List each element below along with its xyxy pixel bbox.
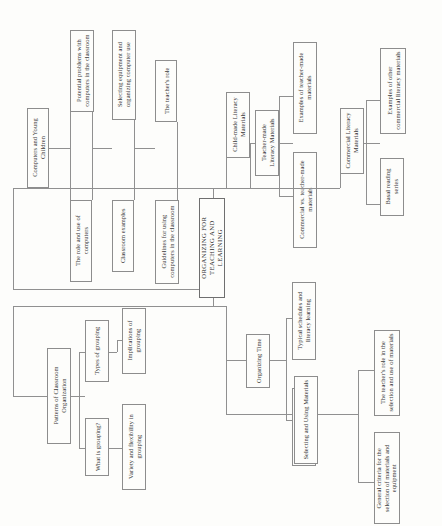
connector-materials-children-spine bbox=[358, 370, 359, 482]
node-organizing-time[interactable]: Organizing Time bbox=[246, 334, 270, 388]
connector-types-riser bbox=[117, 340, 118, 352]
connector-commercial-children-spine bbox=[366, 100, 367, 204]
node-label: Basal readingseries bbox=[384, 169, 399, 205]
node-implications-of-grouping[interactable]: Implications ofgrouping bbox=[122, 308, 146, 374]
connector-role-riser bbox=[92, 148, 93, 200]
node-label: Classroom examples bbox=[119, 209, 127, 264]
connector-time-to-characteristics bbox=[286, 420, 292, 421]
connector-branch4-stem bbox=[213, 306, 226, 307]
node-teacher-made-literacy-materials[interactable]: Teacher-madeLiteracy Materials bbox=[255, 110, 279, 176]
connector-classroom-to-select bbox=[134, 148, 155, 149]
connector-teacher-to-commvs bbox=[279, 196, 293, 197]
node-organizing-for-teaching-and-learning[interactable]: ORGANIZING FORTEACHING ANDLEARNING bbox=[199, 198, 225, 298]
connector-c1-to-col2 bbox=[49, 148, 70, 149]
connector-patterns-to-types bbox=[79, 352, 85, 353]
connector-branch4-materials bbox=[226, 414, 294, 415]
node-label: Examples of othercommercial literacy mat… bbox=[385, 52, 400, 130]
connector-comm-to-examples bbox=[366, 100, 380, 101]
node-commercial-vs-teacher-made[interactable]: Commercial vs. teacher-madematerials bbox=[293, 152, 317, 248]
connector-time-children-spine bbox=[286, 318, 287, 420]
connector-branch2-stem bbox=[213, 188, 226, 189]
node-commercial-literacy-materials[interactable]: Commercial LiteracyMaterials bbox=[340, 108, 364, 174]
node-label: Selecting and Using Materials bbox=[302, 380, 310, 460]
node-types-of-grouping[interactable]: Types of grouping bbox=[85, 320, 109, 382]
connector-materials-to-general bbox=[358, 482, 374, 483]
connector-commercial-riser bbox=[340, 143, 341, 188]
connector-types-to-implications bbox=[117, 340, 122, 341]
node-guidelines-for-using-computers[interactable]: Guidelines for usingcomputers in the cla… bbox=[155, 200, 179, 284]
connector-b2-spine bbox=[226, 132, 227, 188]
node-label: Selecting equipment andorganizing comput… bbox=[116, 42, 131, 107]
node-child-made-literacy-materials[interactable]: Child-made LiteracyMaterials bbox=[226, 92, 250, 158]
connector-c1-col2-riser bbox=[70, 112, 71, 200]
connector-teacher-out bbox=[279, 143, 293, 144]
connector-guidelines-riser bbox=[177, 122, 178, 200]
node-label: Patterns of ClassroomOrganization bbox=[51, 367, 66, 425]
connector-branch4-time bbox=[226, 360, 246, 361]
diagram-title-label: ORGANIZING FORTEACHING ANDLEARNING bbox=[200, 217, 223, 279]
connector-child-to-teacher bbox=[250, 143, 255, 144]
node-what-is-grouping[interactable]: What is grouping? bbox=[85, 418, 109, 476]
connector-branch3-stem bbox=[13, 396, 47, 397]
node-selecting-and-using-materials[interactable]: Selecting and Using Materials bbox=[294, 376, 318, 464]
connector-materials-to-teachers-role bbox=[358, 370, 374, 371]
node-label: General criteria for theselection of mat… bbox=[376, 444, 399, 512]
node-computers-and-young-children[interactable]: Computers and YoungChildren bbox=[27, 108, 49, 188]
node-variety-and-flexibility[interactable]: Variety and flexibility ingrouping bbox=[122, 404, 146, 490]
connector-branch3-top bbox=[13, 306, 214, 307]
node-label: Typical schedules andliteracy learning bbox=[296, 292, 311, 350]
node-patterns-of-classroom-organization[interactable]: Patterns of ClassroomOrganization bbox=[47, 348, 71, 444]
connector-branch1-bottom bbox=[13, 289, 214, 290]
connector-whatis-out bbox=[109, 448, 117, 449]
node-label: The teacher's role bbox=[162, 68, 170, 115]
connector-patterns-out bbox=[71, 396, 85, 397]
connector-materials-out bbox=[318, 414, 358, 415]
node-typical-schedules[interactable]: Typical schedules andliteracy learning bbox=[292, 282, 316, 360]
node-label: Commercial vs. teacher-madematerials bbox=[297, 161, 312, 240]
connector-spine-to-commercial bbox=[226, 188, 340, 189]
node-label: The role and use ofcomputers bbox=[73, 216, 88, 267]
node-label: Organizing Time bbox=[254, 339, 262, 384]
node-label: Implications ofgrouping bbox=[126, 321, 141, 361]
connector-branch1-left bbox=[13, 188, 14, 289]
node-label: What is grouping? bbox=[93, 423, 101, 472]
node-label: Computers and YoungChildren bbox=[30, 119, 45, 178]
node-label: The teacher's role in theselection and u… bbox=[379, 334, 394, 412]
node-examples-of-other-commercial[interactable]: Examples of othercommercial literacy mat… bbox=[380, 48, 406, 134]
connector-comm-to-basal bbox=[366, 204, 380, 205]
connector-whatis-to-variety bbox=[117, 448, 122, 449]
connector-teacher-to-examples bbox=[279, 96, 293, 97]
node-classroom-examples[interactable]: Classroom examples bbox=[112, 200, 134, 272]
node-potential-problems[interactable]: Potential problems withcomputers in the … bbox=[70, 30, 94, 112]
connector-patterns-to-whatis bbox=[79, 448, 85, 449]
connector-types-out bbox=[109, 352, 117, 353]
connector-branch1-top bbox=[13, 188, 214, 189]
node-the-role-and-use-of-computers[interactable]: The role and use ofcomputers bbox=[70, 200, 92, 282]
node-general-criteria[interactable]: General criteria for theselection of mat… bbox=[374, 432, 400, 524]
connector-child-to-teacher-riser bbox=[250, 143, 251, 188]
connector-branch3-left bbox=[13, 306, 14, 396]
node-selecting-equipment[interactable]: Selecting equipment andorganizing comput… bbox=[112, 30, 136, 120]
diagram-canvas: Computers and YoungChildren The role and… bbox=[0, 0, 442, 526]
node-label: Teacher-madeLiteracy Materials bbox=[259, 119, 274, 167]
node-the-teachers-role[interactable]: The teacher's role bbox=[155, 60, 177, 122]
connector-potential-riser bbox=[92, 112, 93, 148]
connector-role-to-potential bbox=[92, 148, 112, 149]
node-teachers-role-in-selection[interactable]: The teacher's role in theselection and u… bbox=[374, 330, 400, 416]
node-label: Child-made LiteracyMaterials bbox=[230, 98, 245, 153]
connector-teacher-children-spine bbox=[279, 96, 280, 196]
node-examples-of-teacher-made-materials[interactable]: Examples of teacher-madematerials bbox=[293, 42, 317, 134]
node-label: Examples of teacher-madematerials bbox=[297, 53, 312, 123]
connector-time-out bbox=[270, 360, 286, 361]
node-label: Guidelines for usingcomputers in the cla… bbox=[159, 206, 174, 278]
node-label: Potential problems withcomputers in the … bbox=[74, 35, 89, 107]
connector-time-to-typical bbox=[286, 318, 292, 319]
connector-patterns-children-spine bbox=[79, 352, 80, 448]
node-label: Commercial LiteracyMaterials bbox=[344, 113, 359, 169]
node-label: Types of grouping bbox=[93, 327, 101, 375]
connector-classroom-riser bbox=[134, 120, 135, 200]
node-label: Variety and flexibility ingrouping bbox=[126, 415, 141, 480]
node-basal-reading-series[interactable]: Basal readingseries bbox=[380, 158, 404, 216]
